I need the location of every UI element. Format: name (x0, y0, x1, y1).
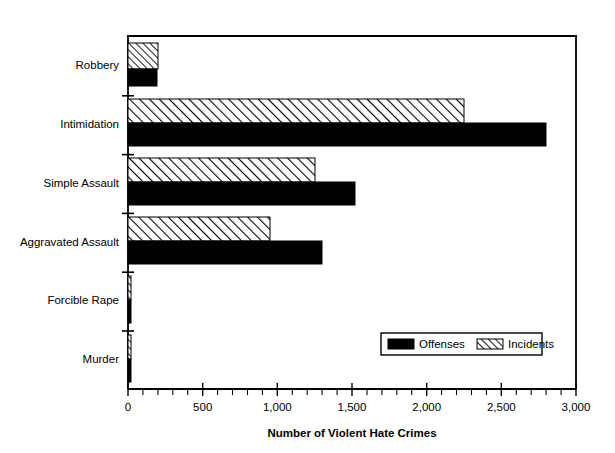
legend-label-incidents: Incidents (508, 338, 554, 350)
bar-group-robbery (128, 43, 158, 86)
xtick-label-2000: 2,000 (412, 401, 441, 413)
bar-incidents-forcible-rape (128, 276, 131, 300)
xtick-label-3000: 3,000 (562, 401, 591, 413)
xtick-label-0: 0 (125, 401, 131, 413)
legend-swatch-offenses (388, 339, 414, 349)
bar-offenses-simple-assault (128, 182, 355, 205)
legend-swatch-incidents (477, 339, 503, 349)
category-label-robbery: Robbery (76, 59, 120, 71)
xtick-label-500: 500 (193, 401, 212, 413)
bar-offenses-aggravated-assault (128, 241, 322, 264)
bar-offenses-intimidation (128, 123, 546, 146)
category-label-simple-assault: Simple Assault (44, 177, 120, 189)
xtick-label-2500: 2,500 (487, 401, 516, 413)
legend-label-offenses: Offenses (419, 338, 465, 350)
x-axis-title: Number of Violent Hate Crimes (267, 427, 436, 439)
bar-incidents-aggravated-assault (128, 217, 270, 241)
category-label-aggravated-assault: Aggravated Assault (20, 236, 120, 248)
bar-offenses-robbery (128, 69, 157, 86)
category-label-intimidation: Intimidation (60, 118, 119, 130)
category-label-murder: Murder (83, 353, 120, 365)
bar-group-forcible-rape (128, 276, 131, 323)
chart-legend: Offenses Incidents (381, 333, 554, 355)
bar-incidents-murder (128, 335, 131, 359)
bar-offenses-murder (128, 359, 131, 382)
bar-incidents-intimidation (128, 99, 464, 123)
bar-incidents-robbery (128, 43, 158, 69)
chart-svg: Robbery Intimidation Simple Assault Aggr… (0, 0, 615, 453)
xtick-label-1000: 1,000 (263, 401, 292, 413)
hate-crimes-bar-chart: Robbery Intimidation Simple Assault Aggr… (0, 0, 615, 453)
category-label-forcible-rape: Forcible Rape (47, 294, 119, 306)
xtick-label-1500: 1,500 (338, 401, 367, 413)
bar-group-murder (128, 335, 131, 382)
bar-incidents-simple-assault (128, 158, 315, 182)
bar-offenses-forcible-rape (128, 300, 131, 323)
